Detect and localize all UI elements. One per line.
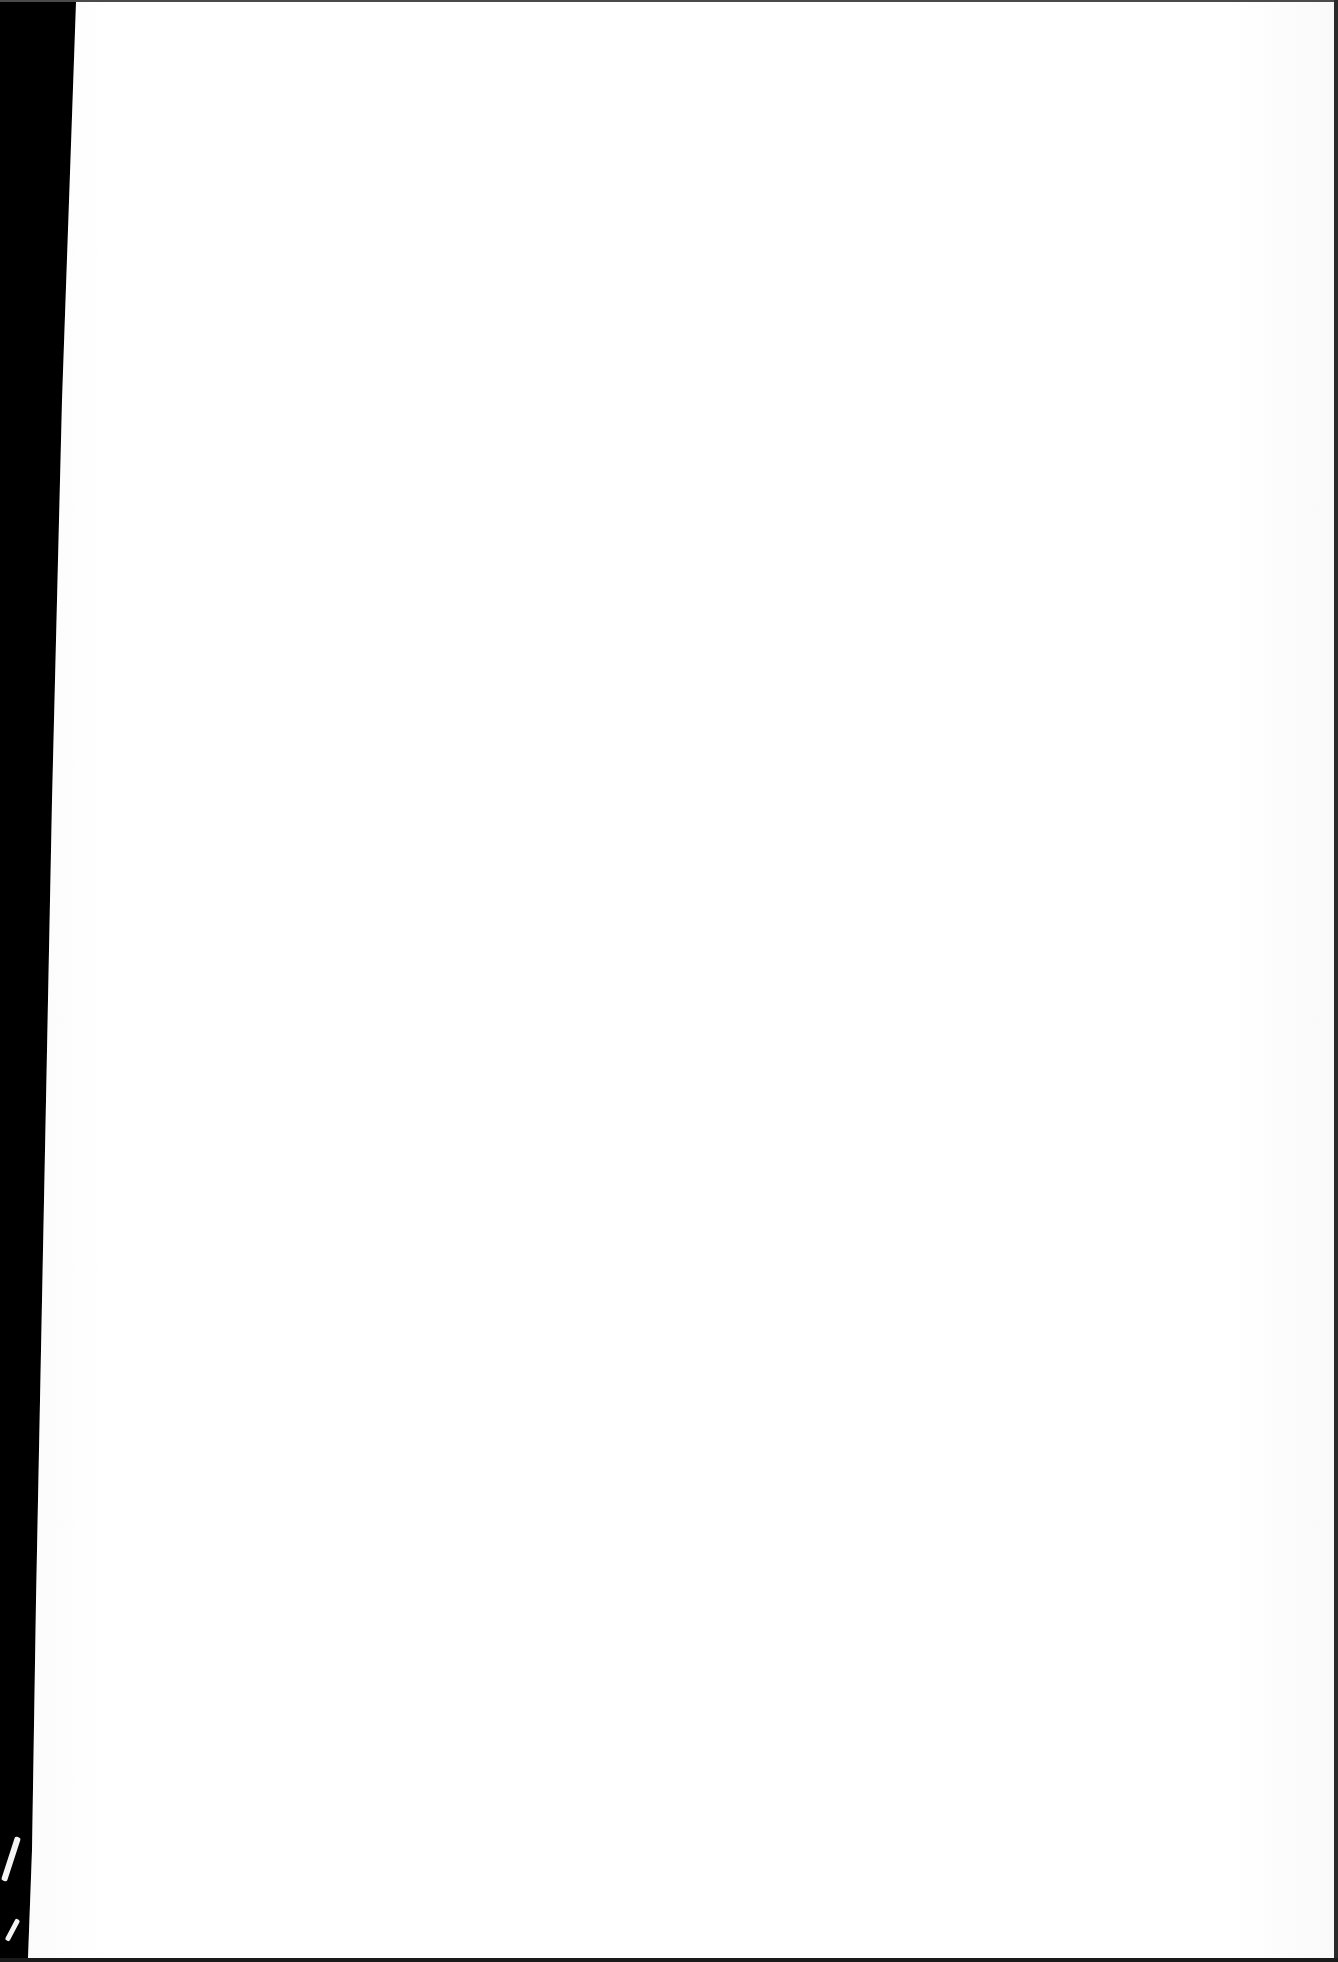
page-right-edge	[1334, 0, 1338, 1962]
torn-paper-fiber	[1, 1836, 21, 1882]
page-bottom-edge	[0, 1958, 1338, 1962]
blank-paper-page	[0, 0, 1338, 1962]
page-content	[0, 0, 1338, 1962]
torn-paper-fiber	[5, 1918, 21, 1942]
scanner-bed	[0, 0, 1338, 1962]
page-top-edge	[0, 0, 1338, 2]
